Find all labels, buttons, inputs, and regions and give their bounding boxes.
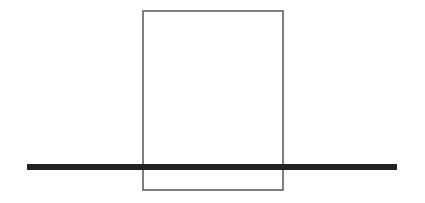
diagram-canvas [0, 0, 425, 203]
rectangle-outline [143, 11, 283, 190]
